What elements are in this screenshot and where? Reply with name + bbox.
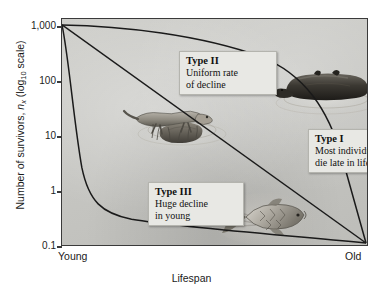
y-axis-title-symbol-subscript: x [19,100,28,104]
y-axis-title-suffix-close: scale) [14,40,26,71]
x-tick-label-old: Old [345,250,361,262]
y-tick-label-0.1: 0.1 [42,241,56,251]
y-tick-label-100: 100 [39,76,56,86]
callout-type-3-line1: Huge decline [155,198,237,210]
y-axis-title-log-base: 10 [19,71,28,79]
y-axis-title-prefix: Number of survivors, [14,110,26,210]
callout-type-1-line1: Most individuals [315,145,368,157]
y-axis-title-symbol: n [14,104,26,110]
callout-type-3-line2: in young [155,210,237,222]
callout-type-1: Type I Most individuals die late in life… [308,129,368,173]
y-tick-label-10: 10 [45,131,56,141]
y-tick-mark-0.1 [57,246,62,248]
callout-type-2-title: Type II [186,55,270,67]
callout-type-3: Type III Huge decline in young [148,182,244,226]
y-axis-title: Number of survivors, nx (log10 scale) [14,32,28,218]
x-axis-title: Lifespan [0,272,383,284]
y-axis-title-suffix-open: (log [14,80,26,100]
callout-type-3-title: Type III [155,186,237,198]
y-tick-label-1: 1 [50,186,56,196]
callout-type-2: Type II Uniform rate of decline [179,51,277,95]
plot-area: Type II Uniform rate of decline Type I M… [61,18,368,246]
callout-type-2-line2: of decline [186,79,270,91]
x-tick-label-young: Young [58,250,87,262]
callout-type-2-line1: Uniform rate [186,67,270,79]
survivorship-curve-figure: 1,000 100 10 1 0.1 Number of survivors, … [0,0,383,291]
callout-type-1-title: Type I [315,133,368,145]
y-tick-label-1000: 1,000 [31,21,56,31]
callout-type-1-line2: die late in life. [315,157,368,169]
